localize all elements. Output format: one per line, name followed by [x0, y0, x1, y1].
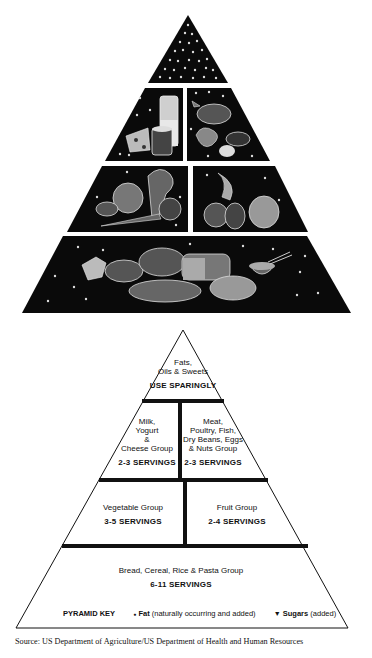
- key-title: PYRAMID KEY: [63, 609, 115, 618]
- servings-label: 2-3 SERVINGS: [183, 458, 243, 467]
- label-line: Meat,: [183, 417, 243, 426]
- servings-label: USE SPARINGLY: [150, 381, 217, 390]
- label-fruit-group: Fruit Group 2-4 SERVINGS: [208, 503, 265, 526]
- sugar-label: Sugars: [283, 609, 308, 618]
- tier-vegetable: [67, 166, 188, 232]
- label-fats-oils-sweets: Fats, Oils & Sweets USE SPARINGLY: [150, 358, 217, 390]
- servings-label: 3-5 SERVINGS: [103, 517, 163, 526]
- sugar-triangle-icon: ▼: [274, 610, 281, 617]
- label-milk-group: Milk, Yogurt & Cheese Group 2-3 SERVINGS: [118, 417, 175, 467]
- label-meat-group: Meat, Poultry, Fish, Dry Beans, Eggs & N…: [183, 417, 243, 467]
- label-line: Fats,: [150, 358, 217, 367]
- illustrated-food-pyramid: [0, 0, 372, 320]
- fat-note: (naturally occurring and added): [152, 609, 256, 618]
- servings-label: 2-3 SERVINGS: [118, 458, 175, 467]
- tier-meat: [187, 88, 270, 161]
- label-vegetable-group: Vegetable Group 3-5 SERVINGS: [103, 503, 163, 526]
- tier-dairy: [105, 88, 183, 161]
- label-line: Cheese Group: [118, 444, 175, 453]
- label-line: Fruit Group: [208, 503, 265, 512]
- label-grains-group: Bread, Cereal, Rice & Pasta Group 6-11 S…: [119, 566, 244, 589]
- servings-label: 2-4 SERVINGS: [208, 517, 265, 526]
- fat-dot-icon: ●: [133, 611, 136, 617]
- fat-label: Fat: [138, 609, 149, 618]
- pyramid-key: PYRAMID KEY ● Fat (naturally occurring a…: [63, 609, 336, 618]
- label-line: Vegetable Group: [103, 503, 163, 512]
- sugar-note: (added): [310, 609, 336, 618]
- label-line: Oils & Sweets: [150, 367, 217, 376]
- label-line: Poultry, Fish,: [183, 426, 243, 435]
- tier-fats-oils-sweets: [148, 15, 228, 83]
- label-line: & Nuts Group: [183, 444, 243, 453]
- tier-fruit: [193, 166, 308, 232]
- source-caption: Source: US Department of Agriculture/US …: [15, 637, 303, 646]
- label-line: Dry Beans, Eggs: [183, 435, 243, 444]
- label-line: Yogurt: [118, 426, 175, 435]
- label-line: Bread, Cereal, Rice & Pasta Group: [119, 566, 244, 575]
- label-line: Milk,: [118, 417, 175, 426]
- servings-label: 6-11 SERVINGS: [119, 580, 244, 589]
- label-line: &: [118, 435, 175, 444]
- tier-grains: [22, 236, 351, 313]
